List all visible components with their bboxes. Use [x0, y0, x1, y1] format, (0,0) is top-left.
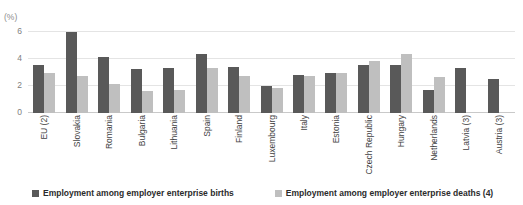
bar-group — [190, 31, 222, 113]
x-axis-label: Lithuania — [170, 115, 179, 150]
bar-deaths — [44, 73, 55, 113]
bar-deaths — [401, 54, 412, 113]
x-axis-label-cell: Hungary — [385, 115, 417, 181]
bar-deaths — [239, 76, 250, 113]
bar-group — [60, 31, 92, 113]
legend-swatch-births-icon — [32, 190, 39, 197]
bar-births — [358, 65, 369, 113]
x-axis-label-cell: Luxembourg — [255, 115, 287, 181]
y-tick-label-2: 2 — [0, 81, 22, 89]
bar-chart: (%) 6 4 2 0 EU (2)SlovakiaRomaniaBulgari… — [0, 0, 523, 205]
bar-group — [223, 31, 255, 113]
bar-births — [196, 54, 207, 113]
bar-deaths — [272, 88, 283, 113]
bar-group — [255, 31, 287, 113]
x-axis-label: Luxembourg — [267, 115, 276, 162]
y-tick-label-4: 4 — [0, 54, 22, 62]
bar-births — [228, 67, 239, 113]
x-axis-label: Latvia (3) — [462, 115, 471, 150]
clipped-chart-title — [100, 0, 440, 6]
bar-births — [163, 68, 174, 113]
bar-group — [483, 31, 515, 113]
x-axis-label: Italy — [299, 115, 308, 131]
x-axis-category-labels: EU (2)SlovakiaRomaniaBulgariaLithuaniaSp… — [28, 115, 515, 181]
bar-births — [293, 75, 304, 113]
x-axis-label-cell: Czech Republic — [353, 115, 385, 181]
x-axis-label-cell: Slovakia — [60, 115, 92, 181]
bar-births — [423, 90, 434, 113]
bar-deaths — [142, 91, 153, 113]
bar-group — [418, 31, 450, 113]
x-axis-label-cell: Finland — [223, 115, 255, 181]
bar-deaths — [336, 73, 347, 113]
legend-item-births: Employment among employer enterprise bir… — [32, 188, 234, 198]
x-axis-label: Slovakia — [72, 115, 81, 147]
x-axis-label: Hungary — [397, 115, 406, 147]
y-tick-label-6: 6 — [0, 27, 22, 35]
bar-group — [158, 31, 190, 113]
bar-group — [93, 31, 125, 113]
x-axis-label: Czech Republic — [364, 115, 373, 175]
y-tick-label-0: 0 — [0, 108, 22, 116]
bar-group — [125, 31, 157, 113]
bar-births — [455, 68, 466, 113]
bar-deaths — [77, 76, 88, 113]
x-axis-label-cell: Estonia — [320, 115, 352, 181]
bar-group — [320, 31, 352, 113]
legend-swatch-deaths-icon — [275, 190, 282, 197]
x-axis-label-cell: Netherlands — [418, 115, 450, 181]
bar-deaths — [109, 84, 120, 113]
bar-births — [66, 32, 77, 113]
x-axis-label-cell: Bulgaria — [125, 115, 157, 181]
x-axis-label: Spain — [202, 115, 211, 137]
bar-births — [33, 65, 44, 113]
bar-births — [261, 86, 272, 113]
x-axis-label-cell: Latvia (3) — [450, 115, 482, 181]
bar-births — [131, 69, 142, 113]
bar-group — [450, 31, 482, 113]
bar-deaths — [304, 76, 315, 113]
chart-legend: Employment among employer enterprise bir… — [0, 186, 523, 200]
x-axis-label-cell: Italy — [288, 115, 320, 181]
x-axis-label: Bulgaria — [137, 115, 146, 146]
bar-deaths — [369, 61, 380, 113]
bar-deaths — [207, 68, 218, 113]
x-axis-label-cell: EU (2) — [28, 115, 60, 181]
x-axis-label-cell: Lithuania — [158, 115, 190, 181]
legend-item-deaths: Employment among employer enterprise dea… — [275, 188, 493, 198]
y-axis-unit-label: (%) — [4, 12, 17, 22]
bar-groups — [28, 31, 515, 113]
bar-deaths — [174, 90, 185, 113]
x-axis-label: Finland — [235, 115, 244, 143]
x-axis-label: Netherlands — [429, 115, 438, 161]
bar-group — [288, 31, 320, 113]
bar-births — [390, 65, 401, 113]
x-axis-label: Romania — [105, 115, 114, 149]
legend-label-deaths: Employment among employer enterprise dea… — [286, 188, 493, 198]
x-axis-label-cell: Spain — [190, 115, 222, 181]
bar-group — [28, 31, 60, 113]
x-axis-label-cell: Austria (3) — [483, 115, 515, 181]
bar-births — [488, 79, 499, 113]
bar-group — [353, 31, 385, 113]
x-axis-label: Estonia — [332, 115, 341, 143]
x-axis-label: Austria (3) — [494, 115, 503, 154]
bar-group — [385, 31, 417, 113]
legend-label-births: Employment among employer enterprise bir… — [43, 188, 234, 198]
x-axis-label-cell: Romania — [93, 115, 125, 181]
bar-births — [98, 57, 109, 113]
x-axis-label: EU (2) — [40, 115, 49, 140]
bar-births — [325, 73, 336, 113]
bar-deaths — [434, 77, 445, 113]
